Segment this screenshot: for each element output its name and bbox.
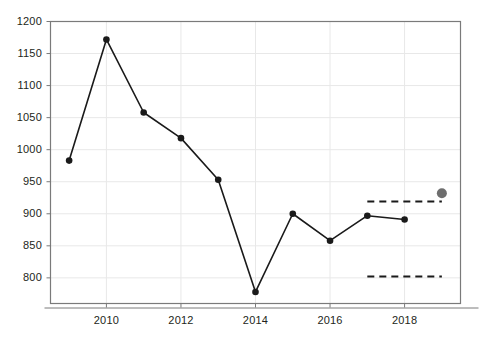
y-tick-label: 800 bbox=[8, 271, 42, 283]
data-point-marker bbox=[66, 157, 73, 164]
data-point-marker bbox=[252, 289, 259, 296]
y-tick-label: 850 bbox=[8, 239, 42, 251]
series-line-observed bbox=[69, 39, 404, 292]
x-tick-label: 2014 bbox=[234, 314, 278, 326]
y-tick-label: 1100 bbox=[8, 79, 42, 91]
data-point-marker bbox=[401, 216, 408, 223]
y-tick-label: 1050 bbox=[8, 111, 42, 123]
chart-plot-area bbox=[0, 0, 483, 345]
data-point-marker bbox=[327, 237, 334, 244]
y-tick-label: 900 bbox=[8, 207, 42, 219]
x-tick-label: 2012 bbox=[159, 314, 203, 326]
data-point-marker bbox=[103, 36, 110, 43]
x-tick-label: 2018 bbox=[383, 314, 427, 326]
y-tick-label: 1150 bbox=[8, 47, 42, 59]
data-point-marker bbox=[140, 109, 147, 116]
y-tick-label: 1200 bbox=[8, 15, 42, 27]
data-point-marker bbox=[215, 177, 222, 184]
y-tick-label: 950 bbox=[8, 175, 42, 187]
y-tick-label: 1000 bbox=[8, 143, 42, 155]
x-tick-label: 2010 bbox=[84, 314, 128, 326]
data-point-marker bbox=[364, 212, 371, 219]
x-tick-label: 2016 bbox=[308, 314, 352, 326]
data-point-marker bbox=[178, 135, 185, 142]
line-chart: 80085090095010001050110011501200 2010201… bbox=[0, 0, 483, 345]
data-point-projection-point bbox=[437, 188, 447, 198]
data-point-marker bbox=[289, 210, 296, 217]
